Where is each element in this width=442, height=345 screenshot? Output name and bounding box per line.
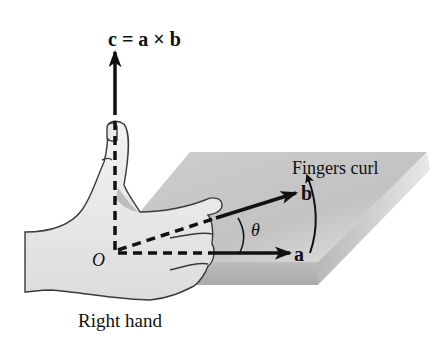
right-hand-rule-diagram: c = a × b b a θ O Fingers curl Right han… (0, 0, 442, 345)
right-hand (25, 121, 222, 300)
a-vector-label: a (294, 243, 304, 265)
theta-label: θ (251, 220, 260, 240)
right-hand-label: Right hand (78, 310, 162, 331)
diagram-canvas: c = a × b b a θ O Fingers curl Right han… (0, 0, 442, 345)
b-vector-label: b (301, 182, 312, 204)
c-equals-a-cross-b-label: c = a × b (108, 28, 181, 50)
hand-palm-and-arm (25, 121, 222, 300)
fingers-curl-label: Fingers curl (292, 158, 378, 178)
origin-label: O (92, 250, 105, 270)
